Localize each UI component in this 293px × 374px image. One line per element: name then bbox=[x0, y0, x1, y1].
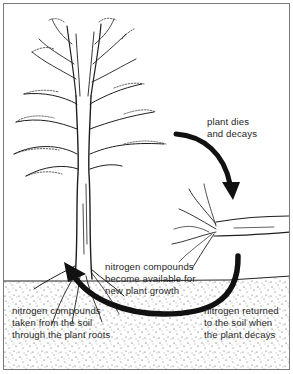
label-plant-dies: plant dies and decays bbox=[207, 116, 257, 140]
fallen-plant bbox=[172, 184, 290, 269]
diagram-frame: plant dies and decays nitrogen compounds… bbox=[3, 3, 290, 370]
label-compounds-available: nitrogen compounds become available for … bbox=[105, 261, 196, 297]
label-nitrogen-returned: nitrogen returned to the soil when the p… bbox=[204, 305, 279, 341]
label-compounds-taken: nitrogen compounds taken from the soil t… bbox=[12, 305, 110, 341]
arrow-plant-dies bbox=[176, 134, 240, 200]
